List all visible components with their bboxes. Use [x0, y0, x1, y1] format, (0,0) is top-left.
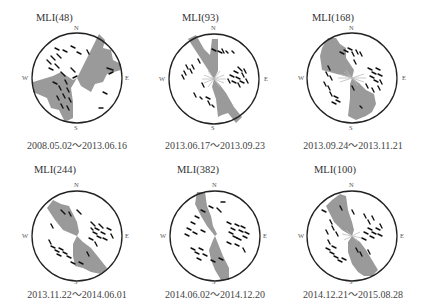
compass-e-label: E [264, 75, 268, 82]
compass-n-label: N [74, 181, 79, 188]
compass-e-label: E [263, 232, 267, 239]
compass-w-label: W [160, 232, 166, 239]
date-range-label: 2013.09.24～2013.11.21 [282, 137, 424, 152]
date-range-label: 2008.05.02～2013.06.16 [6, 137, 148, 152]
rose-panel-5: MLI(382) N [140, 154, 282, 308]
compass-s-label: S [74, 278, 78, 285]
compass-e-label: E [125, 74, 129, 81]
date-range-label: 2013.06.17～2013.09.23 [144, 137, 286, 152]
compass-n-label: N [212, 181, 217, 188]
rose-panel-3: MLI(168) [280, 0, 422, 154]
date-range-label: 2013.11.22～2014.06.01 [6, 286, 148, 301]
compass-n-label: N [74, 24, 79, 31]
date-range-label: 2014.06.02～2014.12.20 [144, 286, 286, 301]
rose-panel-6: MLI(100) [280, 154, 422, 308]
compass-e-label: E [400, 232, 404, 239]
compass-w-label: W [298, 74, 304, 81]
compass-n-label: N [349, 181, 354, 188]
rose-panel-1: MLI(48) N S W E 2008.0 [0, 0, 142, 154]
rose-diagram [140, 154, 282, 308]
compass-s-label: S [212, 278, 216, 285]
compass-w-label: W [22, 74, 28, 81]
compass-s-label: S [349, 124, 353, 131]
compass-n-label: N [211, 24, 216, 31]
compass-s-label: S [74, 124, 78, 131]
rose-panel-2: MLI(93) [140, 0, 282, 154]
rose-panel-4: MLI(244) N S W E 2013. [0, 154, 142, 308]
compass-w-label: W [22, 232, 28, 239]
date-range-label: 2014.12.21～2015.08.28 [282, 286, 424, 301]
rose-diagram [0, 154, 142, 308]
compass-w-label: W [298, 232, 304, 239]
compass-s-label: S [211, 124, 215, 131]
compass-e-label: E [125, 232, 129, 239]
compass-s-label: S [349, 278, 353, 285]
compass-e-label: E [402, 74, 406, 81]
compass-n-label: N [349, 24, 354, 31]
compass-w-label: W [159, 75, 165, 82]
